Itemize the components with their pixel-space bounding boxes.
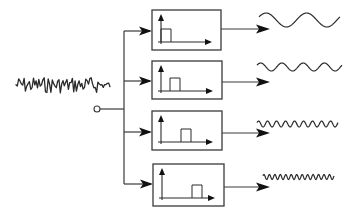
filter-box: [152, 10, 221, 50]
split-node-circle: [94, 106, 100, 112]
output-waveform: [257, 63, 342, 71]
filter-band-1-low: [124, 10, 340, 50]
filter-band-4-high: [124, 164, 334, 206]
output-waveform: [257, 121, 338, 127]
output-waveform: [263, 175, 334, 180]
split-node: [94, 106, 124, 112]
noise-waveform: [16, 78, 110, 93]
filter-box: [152, 61, 222, 99]
filter-box: [153, 164, 224, 206]
filter-band-3: [124, 111, 338, 150]
output-waveform: [259, 13, 340, 27]
noisy-input-signal: [16, 78, 110, 93]
filter-bank: [124, 10, 342, 206]
filter-bank-diagram: [0, 0, 355, 214]
filter-band-2: [124, 61, 342, 99]
filter-box: [152, 111, 222, 150]
